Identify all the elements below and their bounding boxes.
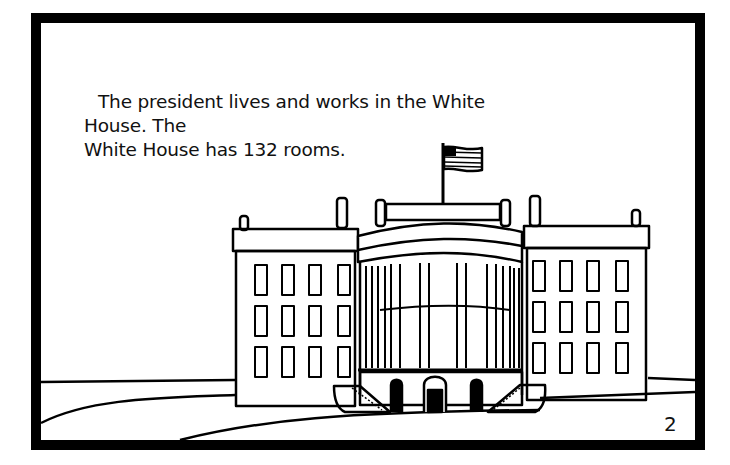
left-windows <box>255 265 350 377</box>
white-house-illustration <box>0 0 730 465</box>
page-number: 2 <box>664 412 677 436</box>
south-portico <box>334 200 545 412</box>
right-wing <box>524 196 649 400</box>
columns <box>366 263 519 368</box>
flag-icon <box>443 143 482 204</box>
left-wing <box>233 198 358 406</box>
right-windows <box>533 261 628 373</box>
ground-lines <box>41 378 695 440</box>
